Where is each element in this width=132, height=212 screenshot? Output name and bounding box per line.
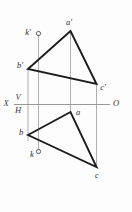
- vertex-label-b: b: [19, 127, 23, 137]
- axis-label-o: O: [113, 98, 119, 108]
- k-point-marker: [36, 149, 40, 153]
- vertex-label-a: a: [76, 107, 80, 117]
- axis-label-x: X: [2, 98, 9, 108]
- vertex-label-k: k: [30, 149, 34, 159]
- vertex-label-c: c: [95, 170, 99, 180]
- vertex-label-k-prime: k': [25, 27, 31, 37]
- k-prime-point-marker: [36, 31, 40, 35]
- plane-label-v: V: [15, 92, 22, 102]
- vertex-label-a-prime: a': [66, 17, 72, 27]
- projection-diagram: X O V H a' b' c' k' a b c k: [0, 0, 132, 212]
- plane-label-h: H: [14, 105, 22, 115]
- vertex-label-c-prime: c': [100, 82, 106, 92]
- vertex-label-b-prime: b': [17, 60, 23, 70]
- projection-drawing-canvas: X O V H a' b' c' k' a b c k: [0, 0, 132, 212]
